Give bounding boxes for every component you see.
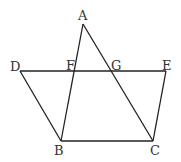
label-G: G — [111, 58, 121, 73]
label-E: E — [162, 58, 172, 73]
label-A: A — [77, 8, 88, 23]
label-B: B — [54, 143, 64, 158]
label-C: C — [150, 143, 160, 158]
segment-EC — [153, 71, 166, 141]
label-D: D — [10, 59, 20, 74]
geometry-diagram: A B C D E F G — [0, 0, 181, 162]
segment-AB — [61, 24, 83, 141]
segment-AC — [83, 24, 153, 141]
segment-DB — [20, 71, 61, 141]
label-F: F — [66, 58, 75, 73]
